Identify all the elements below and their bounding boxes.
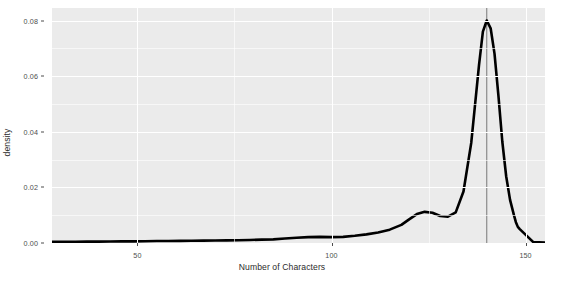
gridline-minor-horizontal xyxy=(52,48,545,49)
gridline-major-horizontal xyxy=(52,21,545,22)
x-axis-tick-mark xyxy=(137,243,138,246)
gridline-major-horizontal xyxy=(52,132,545,133)
x-axis-title: Number of Characters xyxy=(0,262,564,272)
y-axis-title: density xyxy=(2,0,14,285)
plot-panel xyxy=(52,8,545,243)
density-curve-svg xyxy=(52,8,545,243)
gridline-minor-horizontal xyxy=(52,160,545,161)
x-axis-tick-label: 100 xyxy=(325,251,337,260)
y-axis-tick-mark xyxy=(41,76,44,77)
y-axis-tick-mark xyxy=(41,20,44,21)
x-axis-tick-mark xyxy=(526,243,527,246)
x-axis-tick-label: 50 xyxy=(133,251,141,260)
x-axis-tick-label: 150 xyxy=(519,251,531,260)
x-axis-tick-labels: 50100150 xyxy=(0,243,564,263)
y-axis-tick-label: 0.06 xyxy=(24,72,38,81)
x-axis-tick-mark xyxy=(332,243,333,246)
density-plot-figure: 0.000.020.040.060.08 50100150 Number of … xyxy=(0,0,564,285)
gridline-major-horizontal xyxy=(52,76,545,77)
gridline-minor-horizontal xyxy=(52,104,545,105)
gridline-minor-vertical xyxy=(429,8,430,243)
y-axis-tick-label: 0.08 xyxy=(24,16,38,25)
gridline-minor-vertical xyxy=(234,8,235,243)
y-axis-tick-label: 0.02 xyxy=(24,183,38,192)
gridline-major-vertical xyxy=(137,8,138,243)
y-axis-tick-label: 0.04 xyxy=(24,127,38,136)
gridline-minor-horizontal xyxy=(52,215,545,216)
y-axis-tick-mark xyxy=(41,131,44,132)
gridline-major-vertical xyxy=(526,8,527,243)
y-axis-tick-mark xyxy=(41,187,44,188)
gridline-major-horizontal xyxy=(52,187,545,188)
gridline-major-vertical xyxy=(332,8,333,243)
